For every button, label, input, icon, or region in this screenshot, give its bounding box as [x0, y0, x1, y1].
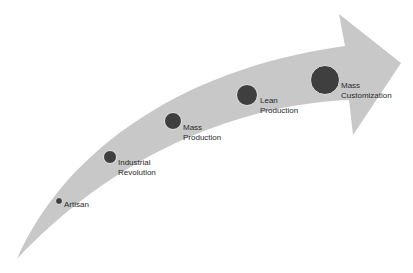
stage-label: Artisan — [64, 200, 89, 210]
stage-label: Mass Production — [183, 123, 221, 143]
stage-label: Industrial Revolution — [118, 158, 156, 178]
stage-marker — [103, 150, 117, 164]
stage-marker — [55, 197, 63, 205]
stage-label: Lean Production — [260, 96, 298, 116]
stage-marker — [310, 65, 340, 95]
stage-label: Mass Customization — [341, 81, 392, 101]
stage-marker — [164, 112, 182, 130]
stage-marker — [236, 84, 258, 106]
